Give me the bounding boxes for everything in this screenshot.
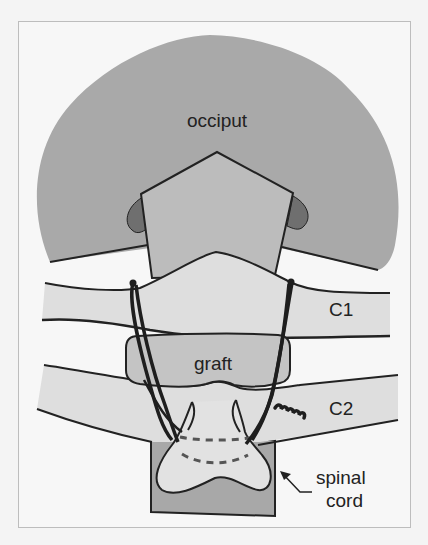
label-graft: graft bbox=[194, 353, 233, 374]
label-occiput: occiput bbox=[187, 110, 248, 131]
c1-c2-fusion-diagram: occiput C1 graft C2 spinal cord bbox=[0, 0, 428, 545]
label-c2: C2 bbox=[329, 398, 353, 419]
arrow-head-icon bbox=[280, 471, 291, 480]
label-spinal: spinal bbox=[316, 467, 366, 488]
wire-anchor-right bbox=[288, 279, 295, 286]
label-cord: cord bbox=[326, 490, 363, 511]
wire-anchor-left bbox=[130, 280, 137, 287]
label-c1: C1 bbox=[329, 299, 353, 320]
c1-vertebra bbox=[42, 252, 390, 338]
